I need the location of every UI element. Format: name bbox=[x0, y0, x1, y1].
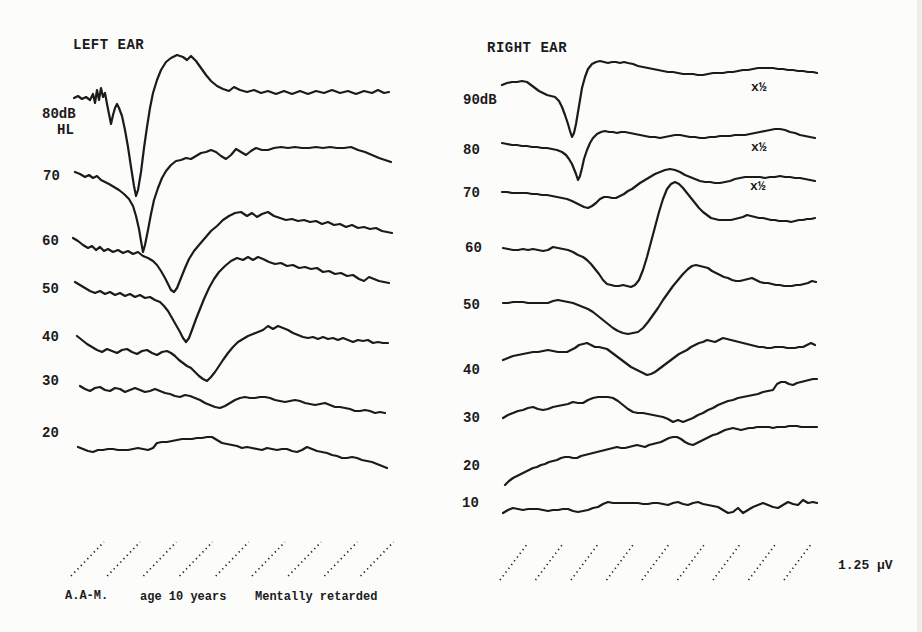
scan-edge-shadow bbox=[917, 0, 922, 632]
right-ear-trace-50 bbox=[503, 265, 816, 334]
right-ear-trace-90dB bbox=[502, 61, 817, 137]
left-ear-label-30: 30 bbox=[42, 374, 59, 388]
left-ear-trace-30 bbox=[80, 386, 385, 413]
right-ear-time-marker bbox=[713, 543, 741, 580]
voltage-scale-label: 1.25 μV bbox=[838, 559, 893, 572]
left-ear-traces bbox=[73, 55, 392, 468]
right-ear-label-10: 10 bbox=[462, 496, 479, 510]
left-ear-time-marker bbox=[288, 542, 321, 576]
right-ear-gain-annotation-90dB: x½ bbox=[751, 81, 767, 94]
right-ear-time-marker bbox=[784, 543, 812, 580]
right-ear-trace-40 bbox=[503, 338, 815, 375]
right-ear-label-40: 40 bbox=[463, 363, 480, 377]
left-ear-label-80dB: 80dB bbox=[42, 107, 76, 121]
right-ear-time-marker bbox=[749, 543, 777, 580]
right-ear-label-90dB: 90dB bbox=[463, 93, 497, 107]
patient-id: A.A-M. bbox=[65, 590, 108, 602]
left-ear-trace-70 bbox=[75, 147, 391, 252]
right-ear-trace-30 bbox=[503, 379, 817, 422]
right-ear-trace-70 bbox=[502, 169, 815, 208]
right-ear-time-marker bbox=[642, 543, 670, 580]
right-ear-label-30: 30 bbox=[463, 411, 480, 425]
right-ear-title: RIGHT EAR bbox=[487, 41, 567, 55]
right-ear-label-70: 70 bbox=[463, 186, 480, 200]
right-ear-label-60: 60 bbox=[465, 241, 482, 255]
left-ear-label-40: 40 bbox=[42, 330, 59, 344]
left-ear-title: LEFT EAR bbox=[73, 38, 144, 52]
right-ear-trace-20 bbox=[505, 426, 817, 485]
left-ear-time-marker bbox=[107, 542, 140, 576]
right-ear-time-marker bbox=[607, 543, 635, 580]
right-ear-label-50: 50 bbox=[463, 298, 480, 312]
left-ear-trace-20 bbox=[78, 437, 387, 468]
left-ear-time-marker bbox=[361, 542, 394, 576]
left-ear-time-markers bbox=[71, 542, 394, 576]
right-ear-time-marker bbox=[500, 543, 528, 580]
waveform-canvas bbox=[0, 0, 922, 632]
left-ear-trace-50 bbox=[75, 257, 389, 342]
left-ear-label-60: 60 bbox=[42, 234, 59, 248]
right-ear-label-80: 80 bbox=[463, 143, 480, 157]
left-ear-time-marker bbox=[252, 542, 285, 576]
left-ear-label-50: 50 bbox=[42, 282, 59, 296]
left-ear-trace-40 bbox=[77, 326, 388, 381]
left-ear-trace-80dB bbox=[74, 55, 389, 196]
left-ear-label-70: 70 bbox=[43, 169, 60, 183]
left-ear-time-marker bbox=[216, 542, 249, 576]
left-ear-time-marker bbox=[324, 542, 357, 576]
right-ear-time-marker bbox=[536, 543, 564, 580]
right-ear-traces bbox=[502, 61, 817, 513]
left-ear-time-marker bbox=[180, 542, 213, 576]
left-ear-label-HL: HL bbox=[57, 123, 74, 137]
right-ear-gain-annotation-80: x½ bbox=[751, 141, 767, 154]
right-ear-gain-annotation-70: x½ bbox=[750, 180, 766, 193]
left-ear-label-20: 20 bbox=[42, 426, 59, 440]
right-ear-time-marker bbox=[678, 543, 706, 580]
left-ear-time-marker bbox=[143, 542, 176, 576]
right-ear-time-markers bbox=[500, 543, 812, 580]
right-ear-time-marker bbox=[571, 543, 599, 580]
right-ear-label-20: 20 bbox=[463, 459, 480, 473]
patient-age: age 10 years bbox=[140, 591, 226, 603]
patient-note: Mentally retarded bbox=[255, 591, 377, 603]
right-ear-trace-60 bbox=[503, 182, 815, 287]
left-ear-time-marker bbox=[71, 542, 104, 576]
evoked-response-figure: LEFT EAR RIGHT EAR A.A-M. age 10 years M… bbox=[0, 0, 922, 632]
right-ear-trace-10 bbox=[503, 500, 817, 513]
left-ear-trace-60 bbox=[73, 212, 392, 292]
